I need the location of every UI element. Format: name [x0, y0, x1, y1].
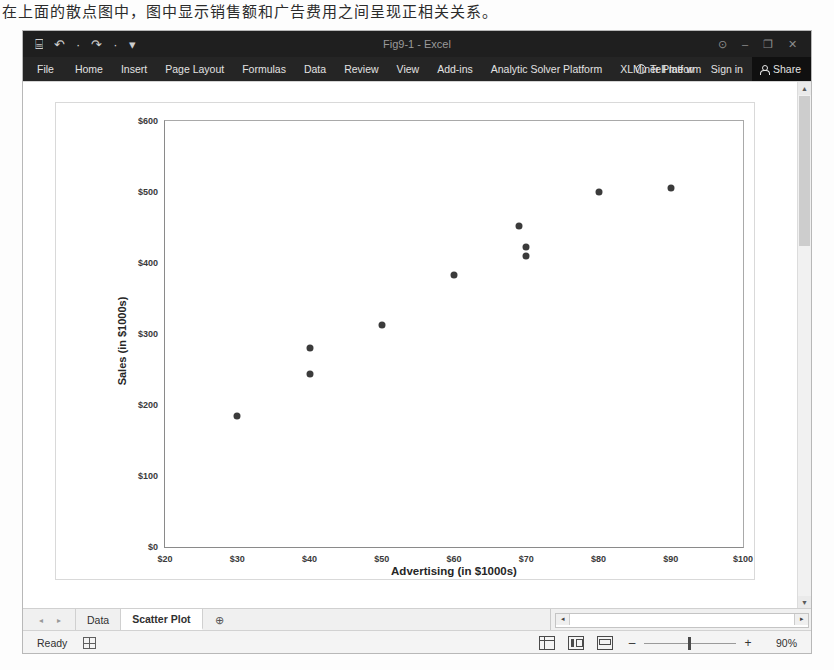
window-controls: ⊙ – ❐ ✕: [718, 31, 805, 57]
normal-view-button[interactable]: [539, 636, 555, 650]
ribbon-tab-file[interactable]: File: [23, 57, 66, 81]
zoom-track[interactable]: [644, 643, 736, 644]
tell-me-search[interactable]: Tell me w: [628, 63, 702, 75]
lightbulb-icon: [636, 64, 646, 74]
record-macro-icon[interactable]: [83, 637, 96, 649]
excel-window: ⌸ ↶ · ↷ · ▾ Fig9-1 - Excel ⊙ – ❐ ✕ File …: [22, 30, 812, 654]
data-point[interactable]: [306, 345, 313, 352]
data-point[interactable]: [234, 412, 241, 419]
redo-dropdown-icon[interactable]: ·: [113, 38, 117, 51]
x-axis-tick-label: $30: [230, 547, 245, 564]
ribbon-tab-view[interactable]: View: [388, 57, 429, 81]
minimize-icon[interactable]: –: [742, 38, 748, 50]
sheet-nav-next-icon[interactable]: ▸: [57, 616, 61, 625]
sheet-nav-first-icon[interactable]: ◂: [39, 616, 43, 625]
x-axis-tick-label: $70: [519, 547, 534, 564]
zoom-slider[interactable]: – +: [626, 637, 754, 649]
sheet-tab-data[interactable]: Data: [76, 609, 121, 631]
page-break-preview-button[interactable]: [597, 636, 613, 650]
status-bar: Ready – + 90%: [23, 630, 811, 654]
x-axis-tick-label: $40: [302, 547, 317, 564]
undo-icon[interactable]: ↶: [54, 38, 65, 51]
ribbon-tab-page-layout[interactable]: Page Layout: [156, 57, 233, 81]
y-axis-tick-label: $500: [138, 187, 165, 197]
ribbon-tab-analytic-solver-platform[interactable]: Analytic Solver Platform: [482, 57, 611, 81]
scroll-right-icon[interactable]: ▸: [794, 614, 808, 625]
ribbon-tab-formulas[interactable]: Formulas: [233, 57, 295, 81]
plot-area: $0$100$200$300$400$500$600$20$30$40$50$6…: [164, 120, 744, 548]
horizontal-scroll-track[interactable]: ◂ ▸: [555, 613, 809, 628]
scroll-left-icon[interactable]: ◂: [556, 614, 570, 625]
x-axis-tick-label: $50: [374, 547, 389, 564]
ribbon-tab-review[interactable]: Review: [335, 57, 387, 81]
y-axis-tick-label: $100: [138, 471, 165, 481]
x-axis-tick-label: $80: [591, 547, 606, 564]
scatter-chart[interactable]: Sales (in $1000s) $0$100$200$300$400$500…: [55, 102, 755, 580]
share-button[interactable]: Share: [752, 57, 811, 81]
data-point[interactable]: [595, 189, 602, 196]
y-axis-title: Sales (in $1000s): [116, 297, 128, 386]
worksheet-canvas[interactable]: Sales (in $1000s) $0$100$200$300$400$500…: [23, 81, 811, 609]
data-point[interactable]: [516, 223, 523, 230]
ribbon-tab-strip: File Home Insert Page Layout Formulas Da…: [23, 57, 811, 81]
save-icon[interactable]: ⌸: [35, 37, 43, 51]
status-text: Ready: [37, 637, 67, 649]
x-axis-tick-label: $20: [157, 547, 172, 564]
share-label: Share: [773, 63, 801, 75]
zoom-thumb[interactable]: [688, 637, 691, 650]
redo-icon[interactable]: ↷: [91, 38, 102, 51]
ribbon-display-options-icon[interactable]: ⊙: [718, 38, 727, 51]
x-axis-title: Advertising (in $1000s): [164, 565, 744, 577]
page-layout-view-button[interactable]: [568, 636, 584, 650]
data-point[interactable]: [523, 243, 530, 250]
sheet-nav-arrows: ◂ ▸: [23, 609, 76, 631]
y-axis-tick-label: $200: [138, 400, 165, 410]
page-caption: 在上面的散点图中，图中显示销售额和广告费用之间呈现正相关关系。: [0, 0, 834, 26]
zoom-out-button[interactable]: –: [626, 637, 638, 649]
close-icon[interactable]: ✕: [788, 38, 797, 51]
quick-access-toolbar: ⌸ ↶ · ↷ · ▾: [23, 37, 136, 51]
ribbon-tab-data[interactable]: Data: [295, 57, 335, 81]
zoom-in-button[interactable]: +: [742, 637, 754, 649]
ribbon-tab-insert[interactable]: Insert: [112, 57, 156, 81]
data-point[interactable]: [378, 321, 385, 328]
horizontal-scrollbar[interactable]: ◂ ▸: [550, 609, 811, 631]
ribbon-right-group: Tell me w Sign in Share: [628, 57, 811, 81]
data-point[interactable]: [523, 252, 530, 259]
x-axis-tick-label: $100: [733, 547, 753, 564]
ribbon-tab-add-ins[interactable]: Add-ins: [428, 57, 482, 81]
zoom-level-label[interactable]: 90%: [767, 637, 797, 649]
status-right-group: – + 90%: [539, 636, 811, 650]
undo-dropdown-icon[interactable]: ·: [76, 38, 80, 51]
ribbon-tab-home[interactable]: Home: [66, 57, 112, 81]
data-point[interactable]: [306, 371, 313, 378]
sheet-tab-bar: ◂ ▸ Data Scatter Plot ⊕ ◂ ▸: [23, 608, 811, 631]
person-icon: [760, 65, 769, 74]
sheet-tab-scatter-plot[interactable]: Scatter Plot: [121, 608, 202, 630]
new-sheet-icon[interactable]: ⊕: [203, 609, 237, 631]
data-point[interactable]: [451, 272, 458, 279]
y-axis-tick-label: $600: [138, 116, 165, 126]
sign-in-button[interactable]: Sign in: [702, 63, 752, 75]
status-left-group: Ready: [23, 637, 96, 649]
workbook-body: Sales (in $1000s) $0$100$200$300$400$500…: [23, 81, 811, 654]
y-axis-tick-label: $300: [138, 329, 165, 339]
customize-quick-access-icon[interactable]: ▾: [129, 38, 136, 51]
restore-icon[interactable]: ❐: [763, 38, 773, 51]
scroll-up-icon[interactable]: ▲: [798, 82, 811, 95]
vertical-scroll-thumb[interactable]: [799, 96, 810, 246]
y-axis-tick-label: $400: [138, 258, 165, 268]
vertical-scrollbar[interactable]: ▲ ▼: [797, 82, 811, 609]
tell-me-label: Tell me w: [650, 63, 694, 75]
data-point[interactable]: [667, 185, 674, 192]
title-bar: ⌸ ↶ · ↷ · ▾ Fig9-1 - Excel ⊙ – ❐ ✕: [23, 31, 811, 57]
document-title: Fig9-1 - Excel: [23, 38, 811, 50]
tab-bar-spacer: [237, 609, 550, 631]
x-axis-tick-label: $60: [446, 547, 461, 564]
x-axis-tick-label: $90: [663, 547, 678, 564]
